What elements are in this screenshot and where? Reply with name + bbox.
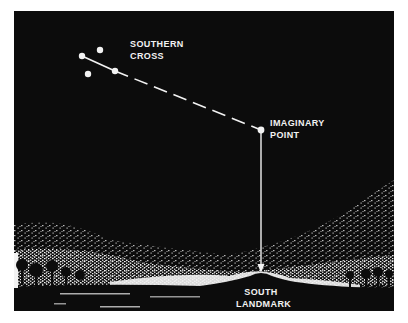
imaginary-point-marker	[258, 127, 265, 134]
label-line: SOUTHERN	[130, 38, 184, 50]
scene-graphic	[14, 11, 394, 311]
cross-axis-line	[82, 56, 115, 71]
label-line: IMAGINARY	[270, 117, 325, 129]
label-line: CROSS	[130, 50, 184, 62]
label-southern-cross: SOUTHERN CROSS	[130, 38, 184, 62]
star-icon	[85, 71, 91, 77]
star-icon	[79, 53, 85, 59]
dashed-extension-line	[115, 71, 261, 130]
label-south-landmark: SOUTH LANDMARK	[236, 286, 286, 310]
horizon-glow	[14, 180, 394, 290]
label-line: SOUTH	[236, 286, 286, 298]
star-icon	[97, 47, 103, 53]
label-imaginary-point: IMAGINARY POINT	[270, 117, 325, 141]
label-line: LANDMARK	[236, 298, 286, 310]
night-sky-diagram: SOUTHERN CROSS IMAGINARY POINT SOUTH LAN…	[14, 11, 394, 311]
label-line: POINT	[270, 129, 325, 141]
star-icon	[112, 68, 118, 74]
